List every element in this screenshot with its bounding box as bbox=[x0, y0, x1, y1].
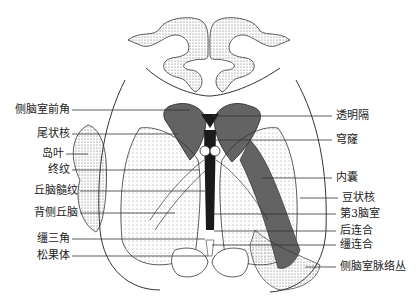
colliculus-right bbox=[212, 248, 248, 277]
corpus-callosum-line bbox=[146, 68, 280, 96]
label-dorsal-thalamus: 背侧丘脑 bbox=[34, 207, 78, 219]
fornix-left bbox=[200, 146, 210, 156]
label-habenular-trigone: 缰三角 bbox=[37, 233, 70, 245]
anatomy-figure: 侧脑室前角 尾状核 岛叶 终纹 丘脑髓纹 背侧丘脑 缰三角 松果体 透明隔 穹窿… bbox=[0, 0, 418, 302]
label-caudate-nucleus: 尾状核 bbox=[37, 128, 70, 140]
label-septum-pellucidum: 透明隔 bbox=[336, 110, 369, 122]
label-third-ventricle: 第3脑室 bbox=[340, 208, 380, 220]
label-habenular-commissure: 缰连合 bbox=[340, 239, 373, 251]
fornix-right bbox=[210, 146, 220, 156]
label-choroid-plexus: 侧脑室脉络丛 bbox=[340, 261, 406, 273]
colliculus-left bbox=[172, 248, 208, 277]
label-fornix: 穹窿 bbox=[336, 134, 358, 146]
insula bbox=[73, 125, 106, 232]
third-ventricle bbox=[204, 130, 216, 230]
label-stria-medullaris: 丘脑髓纹 bbox=[34, 185, 78, 197]
label-stria-terminalis: 终纹 bbox=[48, 164, 70, 176]
label-anterior-horn: 侧脑室前角 bbox=[15, 104, 70, 116]
thalamus-left bbox=[121, 128, 200, 265]
label-insula: 岛叶 bbox=[42, 148, 64, 160]
label-pineal-body: 松果体 bbox=[37, 250, 70, 262]
label-posterior-commissure: 后连合 bbox=[340, 225, 373, 237]
pineal-body bbox=[206, 240, 214, 256]
label-internal-capsule: 内囊 bbox=[336, 172, 358, 184]
label-lentiform-nucleus: 豆状核 bbox=[342, 192, 375, 204]
cortex-section bbox=[128, 18, 290, 92]
